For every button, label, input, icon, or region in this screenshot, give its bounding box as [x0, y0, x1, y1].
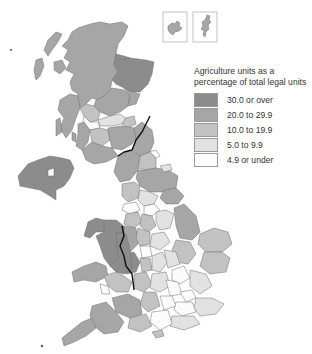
legend-item: 5.0 to 9.9 — [194, 137, 312, 152]
legend-swatch — [194, 108, 218, 122]
legend-item: 30.0 or over — [194, 92, 312, 107]
legend-swatch — [194, 93, 218, 107]
legend-title-line1: Agriculture units as a — [194, 66, 312, 77]
legend-label: 10.0 to 19.9 — [227, 125, 272, 135]
legend-label: 20.0 to 29.9 — [227, 110, 272, 120]
map-legend: Agriculture units as a percentage of tot… — [194, 66, 312, 167]
legend-label: 5.0 to 9.9 — [227, 140, 263, 150]
island-dot — [10, 49, 12, 51]
islands-insets — [163, 12, 217, 42]
legend-title-line2: percentage of total legal units — [194, 77, 312, 88]
legend-swatch — [194, 153, 218, 167]
legend-item: 10.0 to 19.9 — [194, 122, 312, 137]
legend-item: 20.0 to 29.9 — [194, 107, 312, 122]
northern-ireland — [18, 156, 74, 200]
legend-item: 4.9 or under — [194, 152, 312, 167]
legend-title: Agriculture units as a percentage of tot… — [194, 66, 312, 88]
legend-label: 4.9 or under — [227, 155, 273, 165]
legend-label: 30.0 or over — [227, 95, 273, 105]
legend-swatch — [194, 138, 218, 152]
legend-swatch — [194, 123, 218, 137]
uk-choropleth-map — [0, 0, 312, 354]
scilly-dot — [41, 345, 43, 347]
